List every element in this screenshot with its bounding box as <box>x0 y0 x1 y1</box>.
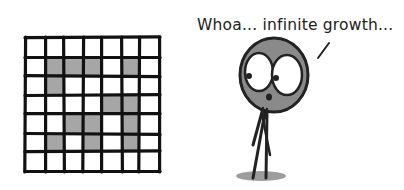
grid-cell-empty <box>102 114 121 133</box>
grid-cell-shaded <box>64 114 83 133</box>
grid-cell-empty <box>45 152 64 171</box>
right-eye <box>272 55 302 95</box>
grid-cell-empty <box>140 114 159 133</box>
grid-cell-empty <box>45 114 64 133</box>
grid-line-horizontal <box>25 76 160 77</box>
grid-cell-empty <box>140 76 159 95</box>
grid-cell-shaded <box>83 57 102 76</box>
grid-cell-empty <box>26 57 45 76</box>
grid-cell-empty <box>64 76 83 95</box>
grid-cell-empty <box>140 95 159 114</box>
grid-cell-shaded <box>121 95 140 114</box>
grid-cell-empty <box>45 38 64 57</box>
grid-cell-empty <box>26 152 45 171</box>
grid-line-horizontal <box>25 151 160 152</box>
grid-cell-empty <box>83 95 102 114</box>
grid-cell-shaded <box>64 57 83 76</box>
grid-cell-empty <box>121 76 140 95</box>
grid-cell-shaded <box>45 57 64 76</box>
grid-cell-empty <box>83 76 102 95</box>
grid-cell-empty <box>26 95 45 114</box>
grid-cell-shaded <box>45 76 64 95</box>
comic-panel: Whoa... infinite growth... <box>0 0 404 190</box>
grid-cell-empty <box>102 57 121 76</box>
grid-line-horizontal <box>25 37 160 38</box>
grid-cell-empty <box>26 76 45 95</box>
grid-line-horizontal <box>25 95 160 96</box>
grid-cell-empty <box>102 38 121 57</box>
ground-shadow <box>236 171 286 181</box>
grid-cell-empty <box>64 95 83 114</box>
speech-text: Whoa... infinite growth... <box>197 16 393 34</box>
stick-figure-character <box>236 38 308 181</box>
right-pupil <box>273 75 279 81</box>
cell-grid <box>25 37 160 172</box>
grid-cell-shaded <box>83 133 102 152</box>
grid-cell-empty <box>83 152 102 171</box>
left-eye <box>245 53 273 91</box>
grid-cell-empty <box>140 152 159 171</box>
grid-cell-empty <box>64 133 83 152</box>
grid-cell-empty <box>102 76 121 95</box>
grid-cell-empty <box>26 114 45 133</box>
speech-indicator-line <box>318 43 329 58</box>
grid-cell-shaded <box>102 95 121 114</box>
grid-cell-empty <box>26 38 45 57</box>
grid-cell-empty <box>83 38 102 57</box>
left-pupil <box>246 73 252 79</box>
grid-cell-empty <box>64 38 83 57</box>
grid-cell-shaded <box>121 57 140 76</box>
grid-cell-empty <box>140 38 159 57</box>
grid-cell-empty <box>102 133 121 152</box>
grid-line-horizontal <box>25 134 160 135</box>
grid-cell-shaded <box>83 114 102 133</box>
grid-cell-empty <box>64 152 83 171</box>
grid-cell-empty <box>121 38 140 57</box>
grid-cell-empty <box>45 95 64 114</box>
grid-cell-shaded <box>45 133 64 152</box>
grid-cell-empty <box>140 57 159 76</box>
grid-cell-empty <box>102 152 121 171</box>
grid-cell-shaded <box>121 114 140 133</box>
grid-cell-empty <box>26 133 45 152</box>
mouth <box>266 94 272 101</box>
